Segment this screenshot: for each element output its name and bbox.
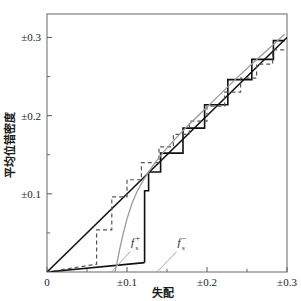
- annotation-superscript: −: [182, 234, 187, 243]
- annotation-subscript: s: [136, 244, 139, 252]
- x-axis-title: 失配: [152, 286, 174, 300]
- series-smooth-gray-curve: [115, 34, 285, 272]
- plot-frame: [47, 14, 287, 272]
- plot-frame-rect: [47, 14, 287, 272]
- data-series-group: [47, 34, 287, 281]
- y-tick-label: ±0.2: [21, 110, 41, 122]
- x-tick-label: ±0.2: [197, 276, 217, 288]
- curve-annotations: f+sf−s: [131, 234, 187, 252]
- x-tick-label: 0: [44, 276, 50, 288]
- y-tick-label: ±0.3: [21, 31, 41, 43]
- chart-svg: 0±0.1±0.2±0.3±0.1±0.2±0.3 f+sf−s 失配 平均位错…: [0, 0, 301, 301]
- y-tick-label: ±0.1: [21, 188, 41, 200]
- annotation-f-minus-s: f−s: [177, 234, 187, 252]
- x-tick-label: ±0.1: [117, 276, 137, 288]
- annotation-superscript: +: [136, 234, 141, 243]
- series-f-minus-s-leader: [148, 252, 177, 282]
- annotation-subscript: s: [182, 244, 185, 252]
- annotation-f-plus-s: f+s: [131, 234, 141, 252]
- series-staircase-dashed: [47, 50, 285, 272]
- x-tick-label: ±0.3: [277, 276, 297, 288]
- y-axis-title: 平均位错密度: [3, 111, 17, 178]
- series-staircase-solid: [145, 41, 285, 263]
- chart-container: 0±0.1±0.2±0.3±0.1±0.2±0.3 f+sf−s 失配 平均位错…: [0, 0, 301, 301]
